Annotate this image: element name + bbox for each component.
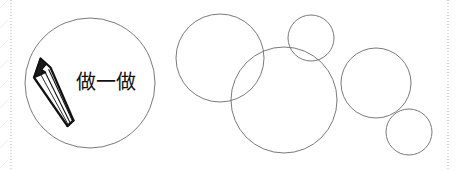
circle-2: [231, 47, 337, 153]
circle-1: [176, 14, 264, 102]
circle-5: [386, 109, 432, 155]
pencil-icon: [34, 59, 74, 127]
scan-hatching: [0, 0, 8, 171]
worksheet-page: 做一做: [0, 0, 456, 171]
activity-label: 做一做: [76, 72, 136, 92]
circle-4: [341, 48, 411, 118]
figure-canvas: [0, 0, 456, 171]
